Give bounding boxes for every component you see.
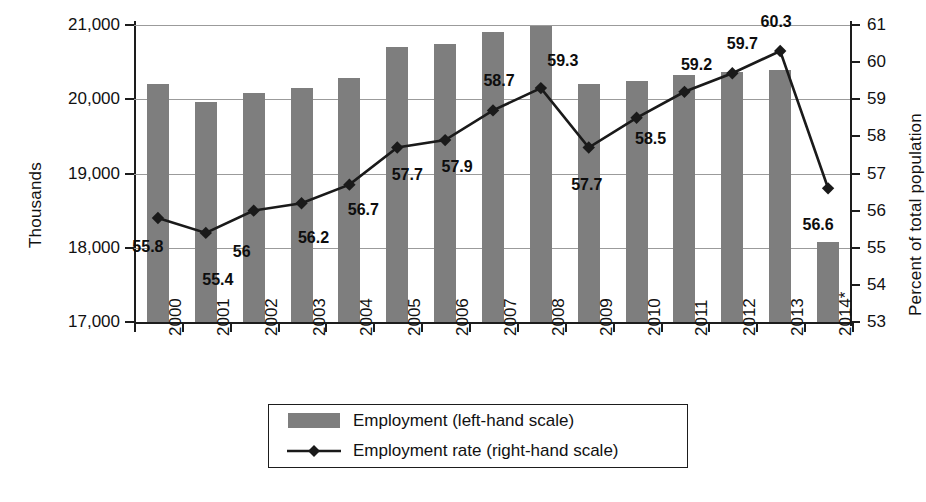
data-label: 60.3 xyxy=(761,13,792,31)
data-label: 59.2 xyxy=(681,56,712,74)
x-axis-tick xyxy=(134,322,136,332)
x-axis-label: 2002 xyxy=(262,298,282,336)
x-axis-label: 2008 xyxy=(549,298,569,336)
right-axis-title: Percent of total population xyxy=(906,113,926,316)
data-label: 58.7 xyxy=(483,72,514,90)
line-series xyxy=(134,25,852,322)
data-point-marker xyxy=(295,197,307,209)
x-axis-label: 2010 xyxy=(645,298,665,336)
x-axis-label: 2009 xyxy=(597,298,617,336)
chart-legend: Employment (left-hand scale) Employment … xyxy=(268,404,688,468)
data-label: 59.3 xyxy=(547,52,578,70)
data-point-marker xyxy=(822,182,834,194)
data-point-marker xyxy=(200,227,212,239)
legend-label-employment-rate: Employment rate (right-hand scale) xyxy=(353,441,619,461)
x-axis-label: 2003 xyxy=(310,298,330,336)
x-axis-label: 2013 xyxy=(788,298,808,336)
right-axis-tick-label: 55 xyxy=(867,238,886,258)
data-point-marker xyxy=(152,212,164,224)
data-label: 57.7 xyxy=(571,176,602,194)
right-axis-tick-label: 60 xyxy=(867,52,886,72)
data-label: 58.5 xyxy=(635,130,666,148)
data-label: 56.7 xyxy=(348,201,379,219)
data-label: 59.7 xyxy=(727,35,758,53)
data-point-marker xyxy=(439,134,451,146)
right-axis-tick-label: 54 xyxy=(867,275,886,295)
right-axis-tick-label: 61 xyxy=(867,15,886,35)
data-label: 55.4 xyxy=(202,271,233,289)
legend-label-employment: Employment (left-hand scale) xyxy=(353,411,574,431)
data-point-marker xyxy=(678,86,690,98)
right-axis-tick-label: 58 xyxy=(867,126,886,146)
x-axis-label: 2007 xyxy=(501,298,521,336)
data-label: 56.2 xyxy=(298,229,329,247)
left-axis-tick xyxy=(125,98,134,100)
right-axis-tick-label: 59 xyxy=(867,89,886,109)
legend-item-employment-rate: Employment rate (right-hand scale) xyxy=(269,439,687,465)
left-axis-tick-label: 21,000 xyxy=(68,15,120,35)
x-axis-label: 2005 xyxy=(405,298,425,336)
x-axis-label: 2011 xyxy=(692,299,712,336)
x-axis-label: 2004 xyxy=(357,298,377,336)
legend-item-employment: Employment (left-hand scale) xyxy=(269,408,687,434)
line-marker-swatch-icon xyxy=(285,443,343,459)
data-label: 56.6 xyxy=(802,216,833,234)
x-axis-label: 2006 xyxy=(453,298,473,336)
data-point-marker xyxy=(247,204,259,216)
left-axis-tick-label: 18,000 xyxy=(68,238,120,258)
left-axis-title: Thousands xyxy=(26,162,46,248)
x-axis-label: 2012 xyxy=(740,298,760,336)
bar-swatch-icon xyxy=(285,413,343,428)
plot-area: 17,00018,00019,00020,00021,000 535455565… xyxy=(134,25,852,322)
left-axis-tick xyxy=(125,321,134,323)
left-axis-tick xyxy=(125,24,134,26)
left-axis-tick xyxy=(125,173,134,175)
right-axis-tick-label: 57 xyxy=(867,164,886,184)
right-axis-tick-label: 53 xyxy=(867,312,886,332)
data-point-marker xyxy=(774,45,786,57)
data-point-marker xyxy=(726,67,738,79)
left-axis-tick-label: 20,000 xyxy=(68,89,120,109)
data-point-marker xyxy=(487,104,499,116)
data-label: 56 xyxy=(233,243,251,261)
data-label: 57.9 xyxy=(442,158,473,176)
left-axis-tick-label: 17,000 xyxy=(68,312,120,332)
x-axis-label: 2014* xyxy=(836,292,856,336)
data-label: 55.8 xyxy=(132,238,163,256)
left-axis-tick-label: 19,000 xyxy=(68,164,120,184)
data-label: 57.7 xyxy=(392,166,423,184)
right-axis-tick-label: 56 xyxy=(867,201,886,221)
x-axis-label: 2000 xyxy=(166,298,186,336)
x-axis-label: 2001 xyxy=(214,298,234,336)
data-point-marker xyxy=(630,112,642,124)
